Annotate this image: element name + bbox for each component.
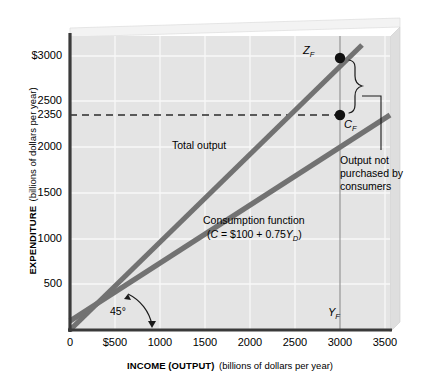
total-output-label: Total output bbox=[172, 139, 226, 151]
eq-c: C bbox=[211, 228, 219, 240]
zf-subscript: F bbox=[310, 50, 315, 59]
y-axis-title: EXPENDITURE (billions of dollars per yea… bbox=[22, 66, 40, 296]
chart-figure: $3000 2500 2350 2000 1500 1000 500 0 $50… bbox=[0, 0, 428, 386]
chart-canvas bbox=[0, 0, 428, 386]
angle-label: 45° bbox=[110, 305, 126, 317]
x-tick-1500: 1500 bbox=[185, 336, 225, 348]
cf-subscript: F bbox=[352, 124, 357, 133]
panel-top-bevel bbox=[70, 18, 400, 37]
gap-caption-line-1: Output not bbox=[340, 154, 403, 167]
y-axis-title-bold: EXPENDITURE bbox=[27, 206, 38, 275]
cf-point-label: CF bbox=[344, 118, 357, 133]
y-axis-title-rest: (billions of dollars per year) bbox=[27, 87, 38, 201]
yf-axis-label: YF bbox=[328, 306, 340, 321]
x-tick-3500: 3500 bbox=[365, 336, 405, 348]
y-tick-3000: $3000 bbox=[4, 49, 62, 61]
eq-y: Y bbox=[286, 228, 293, 240]
consumption-function-label: Consumption function bbox=[203, 214, 305, 226]
x-tick-0: 0 bbox=[50, 336, 90, 348]
eq-mid: = $100 + 0.75 bbox=[218, 228, 286, 240]
marker-zf bbox=[335, 53, 345, 63]
output-gap-caption: Output not purchased by consumers bbox=[340, 154, 403, 193]
cf-main: C bbox=[344, 118, 352, 130]
gap-caption-line-3: consumers bbox=[340, 180, 403, 193]
x-tick-2000: 2000 bbox=[230, 336, 270, 348]
x-tick-3000: 3000 bbox=[320, 336, 360, 348]
x-axis-title: INCOME (OUTPUT) (billions of dollars per… bbox=[70, 355, 390, 373]
x-axis-title-bold: INCOME (OUTPUT) bbox=[127, 360, 215, 371]
x-tick-500: $500 bbox=[95, 336, 135, 348]
zf-main: Z bbox=[303, 44, 310, 56]
x-axis-title-rest: (billions of dollars per year) bbox=[219, 360, 333, 371]
zf-point-label: ZF bbox=[303, 44, 314, 59]
yf-subscript: F bbox=[335, 312, 340, 321]
eq-close: ) bbox=[298, 228, 302, 240]
gap-caption-line-2: purchased by bbox=[340, 167, 403, 180]
x-tick-2500: 2500 bbox=[275, 336, 315, 348]
x-tick-1000: 1000 bbox=[140, 336, 180, 348]
consumption-function-equation: (C = $100 + 0.75YD) bbox=[207, 228, 302, 243]
